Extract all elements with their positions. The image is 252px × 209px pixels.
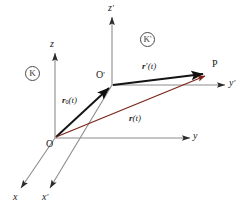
axis-label-y-prime: y' [229,78,235,88]
axis-label-y: y [193,131,197,141]
axis-label-y-prime-mark: ' [233,78,235,88]
axis-label-x-prime: x' [42,192,48,202]
vector-label-r-prime-argument: (t) [148,61,157,71]
axis-label-x-prime-mark: ' [46,192,48,202]
frame-badge-K-prime-mark: ' [150,36,151,44]
point-label-O-prime-mark: ' [103,70,105,80]
axis-label-z-prime: z' [108,3,114,13]
vector-label-r: r(t) [129,114,141,123]
vector-label-r0: r0(t) [62,96,77,105]
frame-badge-K: K [25,66,40,81]
vector-diagram-figure: z y x z' y' x' K K' O O' P r0(t) r'(t) r… [0,0,252,209]
point-label-O: O [46,139,53,149]
axis-label-z: z [50,39,54,49]
axis-line-x-prime [50,85,112,188]
vector-label-r-prime: r'(t) [142,62,156,71]
frame-badge-K-prime: K' [140,32,155,47]
frame-badge-K-label: K [29,69,36,78]
axis-label-x: x [13,192,17,202]
axis-label-z-prime-mark: ' [112,3,114,13]
point-label-P: P [212,59,218,69]
point-label-O-prime: O' [96,70,105,80]
axis-group-K [21,53,190,188]
vector-r-prime [113,74,203,85]
vector-label-r-argument: (t) [133,113,142,123]
vector-label-r0-argument: (t) [69,95,78,105]
diagram-canvas [0,0,252,209]
